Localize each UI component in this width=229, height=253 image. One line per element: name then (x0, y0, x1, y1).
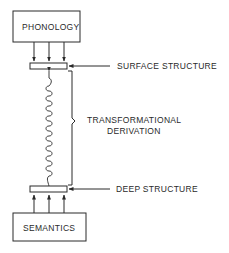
transformational-label: TRANSFORMATIONAL (87, 115, 181, 125)
deep-structure-bar (30, 186, 67, 192)
transformation-coil (46, 71, 52, 186)
deep-structure-label: DEEP STRUCTURE (116, 184, 198, 194)
derivation-bracket (68, 71, 75, 185)
down-arrows (34, 42, 64, 61)
surface-structure-bar (30, 63, 67, 69)
up-arrows (34, 195, 64, 213)
surface-structure-label: SURFACE STRUCTURE (117, 61, 217, 71)
derivation-label: DERIVATION (107, 126, 161, 136)
phonology-label: PHONOLOGY (22, 22, 80, 32)
semantics-label: SEMANTICS (23, 223, 75, 233)
